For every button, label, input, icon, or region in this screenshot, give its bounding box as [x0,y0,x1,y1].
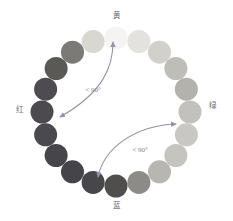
color-dot [127,171,150,194]
color-dot [179,101,202,124]
color-dot [175,123,198,146]
color-dot [34,123,57,146]
color-dot [105,27,128,50]
color-dot [82,171,105,194]
color-dot [164,57,187,80]
angle-annotation-upper: < 90° [85,87,101,94]
color-dot [61,160,84,183]
angle-annotation-lower: < 90° [132,147,148,154]
color-dot [175,78,198,101]
ring-label-bottom: 蓝 [113,202,120,210]
color-dot [31,101,54,124]
color-dot [127,30,150,53]
color-dot [45,57,68,80]
color-dot-ring [31,27,202,198]
color-wheel-diagram [0,0,233,221]
color-dot [82,30,105,53]
color-dot [34,78,57,101]
color-dot [61,41,84,64]
ring-label-top: 黄 [113,12,120,20]
color-dot [164,144,187,167]
color-dot [45,144,68,167]
ring-label-left: 红 [16,106,23,114]
color-dot [148,160,171,183]
figure-canvas: 黄 绿 蓝 红 < 90° < 90° [0,0,233,221]
color-dot [148,41,171,64]
ring-label-right: 绿 [209,102,216,110]
color-dot [105,175,128,198]
